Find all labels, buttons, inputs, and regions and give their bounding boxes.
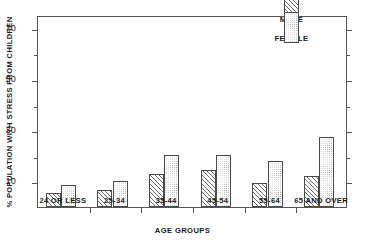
x-tick-label: 45-54 — [207, 196, 228, 205]
y-tick-major — [32, 30, 38, 31]
x-tick — [141, 207, 142, 213]
y-tick-minor-right — [346, 158, 350, 159]
y-tick-minor-right — [346, 107, 350, 108]
y-tick-major-right — [346, 132, 352, 133]
x-tick-label: 55-64 — [259, 196, 280, 205]
y-tick-major-right — [346, 81, 352, 82]
x-tick — [90, 207, 91, 213]
x-tick — [193, 207, 194, 213]
x-tick-label: 24 OR LESS — [39, 196, 86, 205]
y-tick-label: 70 — [0, 24, 16, 33]
y-tick-major — [32, 132, 38, 133]
x-tick-label: 25-34 — [104, 196, 125, 205]
plot-area — [37, 16, 347, 208]
y-tick-major — [32, 81, 38, 82]
x-tick — [245, 207, 246, 213]
y-tick-minor — [34, 107, 38, 108]
chart-figure: % POPULATION WITH STRESS FROM CHILDREN 1… — [0, 0, 365, 244]
chart-legend: MALE FEMALE — [263, 14, 333, 43]
y-tick-minor — [34, 158, 38, 159]
y-tick-minor-right — [346, 55, 350, 56]
y-tick-major-right — [346, 30, 352, 31]
x-tick — [296, 207, 297, 213]
y-tick-major — [32, 183, 38, 184]
x-tick-label: 35-44 — [156, 196, 177, 205]
legend-item-female: FEMALE — [263, 34, 333, 43]
y-tick-major-right — [346, 183, 352, 184]
y-tick-label: 50 — [0, 75, 16, 84]
legend-swatch-female — [284, 12, 299, 43]
y-tick-minor — [34, 55, 38, 56]
y-tick-label: 10 — [0, 177, 16, 186]
x-tick-label: 65 AND OVER — [294, 196, 348, 205]
x-axis-title: AGE GROUPS — [0, 226, 365, 235]
y-tick-label: 30 — [0, 126, 16, 135]
